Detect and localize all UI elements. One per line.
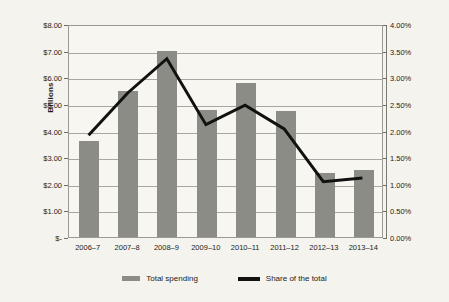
y-axis-left-tick-label: $8.00 [2,21,62,30]
y-axis-right-tick-mark [383,25,387,26]
y-axis-left-tick-label: $3.00 [2,154,62,163]
y-axis-left-tick-label: $1.00 [2,207,62,216]
y-axis-right-tick-mark [383,238,387,239]
y-axis-right-tick-mark [383,185,387,186]
y-axis-right-tick-label: 1.50% [390,154,449,163]
y-axis-right-tick-mark [383,78,387,79]
y-axis-right-tick-mark [383,132,387,133]
legend-label-total-spending: Total spending [146,274,198,283]
y-axis-left-tick-label: $4.00 [2,128,62,137]
line-path [89,59,363,182]
y-axis-right-tick-label: 2.50% [390,101,449,110]
y-axis-left-tick-label: $5.00 [2,101,62,110]
y-axis-right-tick-mark [383,211,387,212]
y-axis-title: Billions [46,58,55,138]
legend-item-share-of-the-total: Share of the total [238,274,327,283]
legend-bar-swatch-icon [122,276,140,281]
y-axis-left-tick-label: $6.00 [2,74,62,83]
x-axis-tick-label: 2013–14 [338,243,388,252]
y-axis-right-tick-mark [383,52,387,53]
y-axis-right-tick-label: 4.00% [390,21,449,30]
y-axis-left-tick-label: $7.00 [2,48,62,57]
legend-label-share-of-the-total: Share of the total [266,274,327,283]
y-axis-right-tick-label: 0.00% [390,234,449,243]
y-axis-right-tick-label: 0.50% [390,207,449,216]
y-axis-left-tick-label: $- [2,234,62,243]
y-axis-right-tick-mark [383,105,387,106]
y-axis-right-tick-label: 2.00% [390,128,449,137]
legend-item-total-spending: Total spending [122,274,198,283]
y-axis-right-tick-label: 1.00% [390,181,449,190]
y-axis-right-tick-label: 3.50% [390,48,449,57]
y-axis-left-tick-mark [64,238,68,239]
chart-legend: Total spending Share of the total [0,274,449,283]
legend-line-swatch-icon [238,277,260,281]
chart-container: Billions $-$1.00$2.00$3.00$4.00$5.00$6.0… [0,0,449,302]
y-axis-left-tick-label: $2.00 [2,181,62,190]
plot-area [68,25,383,238]
line-series-share-of-the-total [69,26,382,237]
y-axis-right-tick-label: 3.00% [390,74,449,83]
y-axis-right-tick-mark [383,158,387,159]
